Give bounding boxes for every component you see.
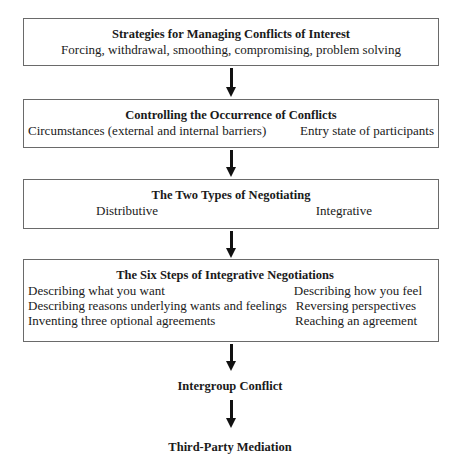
box-text-left: Inventing three optional agreements xyxy=(28,313,215,328)
box-text-right: Reaching an agreement xyxy=(295,313,417,328)
arrow-down-icon xyxy=(226,231,236,258)
box-title: The Two Types of Negotiating xyxy=(24,188,438,203)
box-text-left: Circumstances (external and internal bar… xyxy=(28,123,266,138)
box-six-steps: The Six Steps of Integrative Negotiation… xyxy=(23,259,439,342)
box-text-right: Reversing perspectives xyxy=(296,298,416,313)
box-two-types: The Two Types of Negotiating Distributiv… xyxy=(23,179,439,229)
arrow-down-icon xyxy=(226,150,236,177)
box-title: Strategies for Managing Conflicts of Int… xyxy=(24,27,438,42)
box-text-right: Entry state of participants xyxy=(300,123,434,138)
arrow-down-icon xyxy=(226,68,236,97)
arrow-down-icon xyxy=(226,400,236,429)
box-title: Controlling the Occurrence of Conflicts xyxy=(28,108,434,123)
box-text-right: Describing how you feel xyxy=(294,283,422,298)
arrow-down-icon xyxy=(226,344,236,372)
node-third-party-mediation: Third-Party Mediation xyxy=(0,440,460,455)
box-title: The Six Steps of Integrative Negotiation… xyxy=(28,268,422,283)
box-strategies: Strategies for Managing Conflicts of Int… xyxy=(23,18,439,66)
box-text-left: Distributive xyxy=(96,203,158,218)
box-text-right: Integrative xyxy=(316,203,372,218)
box-text-left: Describing reasons underlying wants and … xyxy=(28,298,287,313)
node-intergroup-conflict: Intergroup Conflict xyxy=(0,379,460,394)
box-controlling: Controlling the Occurrence of Conflicts … xyxy=(23,99,439,148)
box-text: Forcing, withdrawal, smoothing, compromi… xyxy=(24,42,438,57)
box-text-left: Describing what you want xyxy=(28,283,165,298)
